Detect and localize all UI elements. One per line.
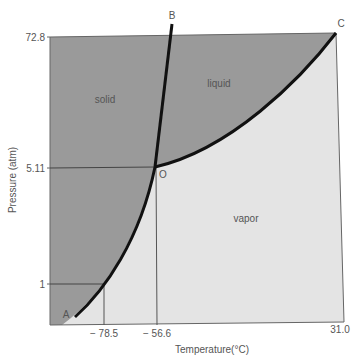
y-tick-5.11: 5.11 bbox=[26, 163, 45, 174]
x-axis-label: Temperature(°C) bbox=[175, 344, 249, 355]
point-label-B: B bbox=[169, 10, 176, 21]
y-axis-label: Pressure (atm) bbox=[7, 147, 18, 213]
x-tick-78.5: − 78.5 bbox=[90, 328, 119, 339]
region-label-solid: solid bbox=[95, 94, 116, 105]
region-label-vapor: vapor bbox=[233, 213, 259, 224]
y-tick-1: 1 bbox=[39, 279, 45, 290]
point-label-C: C bbox=[337, 18, 344, 29]
y-tick-72.8: 72.8 bbox=[26, 32, 46, 43]
x-tick-56.6: − 56.6 bbox=[143, 328, 172, 339]
point-label-O: O bbox=[159, 169, 167, 180]
x-tick-31.0: 31.0 bbox=[330, 324, 350, 335]
phase-diagram: 72.8 5.11 1 − 78.5 − 56.6 31.0 Temperatu… bbox=[0, 0, 361, 364]
point-label-A: A bbox=[63, 309, 70, 320]
region-label-liquid: liquid bbox=[207, 78, 230, 89]
